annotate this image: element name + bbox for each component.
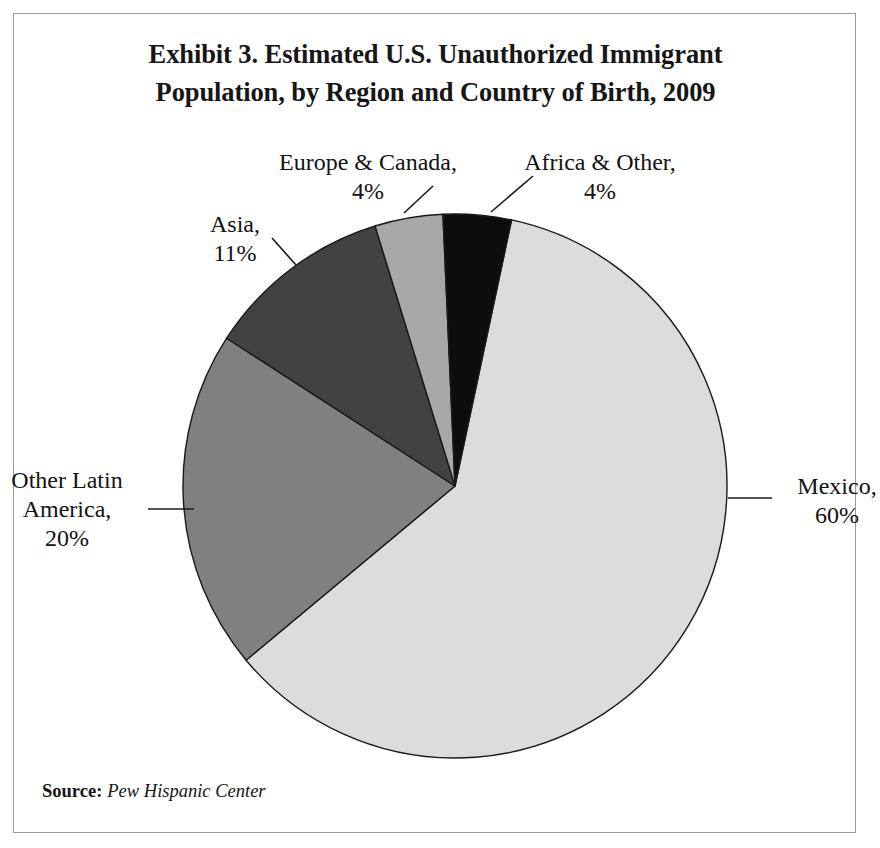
slice-label-other-latin-america-name-2: America,	[0, 495, 146, 524]
slice-label-africa-other-name: Africa & Other,	[500, 148, 700, 177]
source-note: Source:Pew Hispanic Center	[42, 780, 266, 802]
slice-label-asia-name: Asia,	[180, 210, 290, 239]
source-value: Pew Hispanic Center	[107, 781, 265, 801]
slice-label-asia-value: 11%	[180, 239, 290, 268]
source-label: Source:	[42, 781, 102, 801]
slice-label-other-latin-america-name-1: Other Latin	[0, 466, 146, 495]
slice-label-other-latin-america: Other Latin America, 20%	[0, 466, 146, 552]
slice-label-europe-canada-name: Europe & Canada,	[248, 148, 488, 177]
slice-label-europe-canada-value: 4%	[248, 177, 488, 206]
slice-label-africa-other: Africa & Other, 4%	[500, 148, 700, 206]
pie-slice-group	[183, 214, 727, 758]
slice-label-mexico-name: Mexico,	[779, 472, 880, 501]
slice-label-europe-canada: Europe & Canada, 4%	[248, 148, 488, 206]
slice-label-mexico-value: 60%	[779, 501, 880, 530]
slice-label-africa-other-value: 4%	[500, 177, 700, 206]
slice-label-asia: Asia, 11%	[180, 210, 290, 268]
slice-label-other-latin-america-value: 20%	[0, 524, 146, 553]
slice-label-mexico: Mexico, 60%	[779, 472, 880, 530]
